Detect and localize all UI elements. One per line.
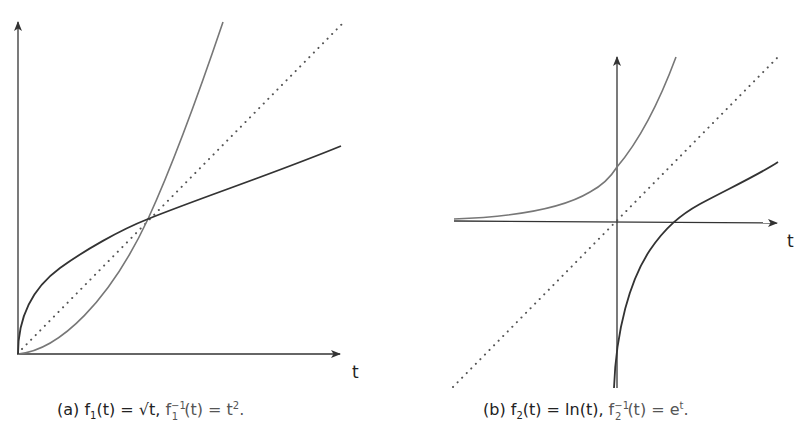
panel-a-identity-line: [22, 24, 342, 349]
panel-a-caption: (a) f1(t) = √t, f−11(t) = t2.: [57, 400, 244, 422]
panel-a-caption-function: f1(t) = √t: [84, 400, 155, 419]
panel-b-x-axis: [454, 221, 777, 223]
panel-b-exp-curve: [454, 57, 676, 219]
panel-a-plot: [17, 22, 342, 354]
panel-b-caption-inverse: f−12(t) = et.: [609, 400, 689, 419]
panel-a-caption-tag: (a): [57, 400, 79, 419]
figure-canvas: [0, 0, 809, 445]
panel-b-plot: [453, 57, 778, 388]
panel-a-sqrt-curve: [18, 146, 341, 354]
panel-b-caption-function: f2(t) = ln(t): [511, 400, 599, 419]
panel-a-square-curve: [18, 22, 223, 354]
panel-a-x-axis-label: t: [352, 362, 359, 382]
panel-b-caption: (b) f2(t) = ln(t), f−12(t) = et.: [483, 400, 689, 422]
panel-a-caption-inverse: f−11(t) = t2.: [165, 400, 244, 419]
panel-b-caption-tag: (b): [483, 400, 506, 419]
panel-b-ln-curve: [614, 162, 778, 388]
panel-b-x-axis-label: t: [787, 231, 794, 251]
